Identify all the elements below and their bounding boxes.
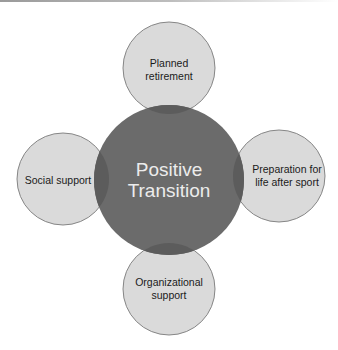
center-label-line-1: Positive	[128, 159, 211, 180]
satellite-right-line-2: life after sport	[252, 176, 321, 189]
satellite-top-line-1: Planned	[145, 57, 192, 70]
satellite-label-left: Social support	[25, 174, 92, 187]
satellite-label-right: Preparation for life after sport	[252, 163, 321, 189]
satellite-label-bottom: Organizational support	[135, 276, 203, 302]
center-label: Positive Transition	[128, 159, 211, 201]
satellite-right-line-1: Preparation for	[252, 163, 321, 176]
satellite-bottom-line-2: support	[135, 289, 203, 302]
satellite-top-line-2: retirement	[145, 70, 192, 83]
center-label-line-2: Transition	[128, 180, 211, 201]
satellite-label-top: Planned retirement	[145, 57, 192, 83]
satellite-bottom-line-1: Organizational	[135, 276, 203, 289]
satellite-left-line-1: Social support	[25, 174, 92, 187]
